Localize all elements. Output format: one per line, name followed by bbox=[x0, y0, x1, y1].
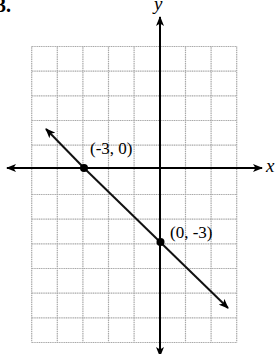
plotted-line bbox=[46, 129, 228, 308]
y-axis-label: y bbox=[154, 0, 162, 13]
point-x-intercept bbox=[80, 164, 88, 172]
point-label-x-intercept: (-3, 0) bbox=[90, 140, 132, 157]
coordinate-plane bbox=[0, 0, 278, 354]
point-label-y-intercept: (0, -3) bbox=[170, 224, 212, 241]
graph-figure: 3. bbox=[0, 0, 278, 354]
grid bbox=[32, 47, 237, 343]
x-axis-label: x bbox=[266, 156, 274, 175]
point-y-intercept bbox=[157, 238, 165, 246]
